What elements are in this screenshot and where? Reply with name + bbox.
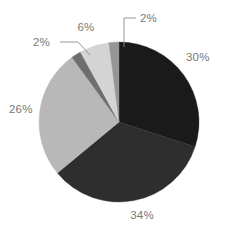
pie-chart-svg: 30%34%26%2%6%2% xyxy=(0,0,226,228)
pie-slice-label-3: 2% xyxy=(33,36,50,48)
pie-slice-label-2: 26% xyxy=(9,103,33,115)
pie-slice-label-1: 34% xyxy=(130,209,154,221)
pie-slice-label-0: 30% xyxy=(186,51,210,63)
pie-slice-label-4: 6% xyxy=(77,21,94,33)
pie-chart-figure: 30%34%26%2%6%2% xyxy=(0,0,226,228)
pie-slice-label-5: 2% xyxy=(140,12,157,24)
pie-slices-group xyxy=(39,42,199,202)
